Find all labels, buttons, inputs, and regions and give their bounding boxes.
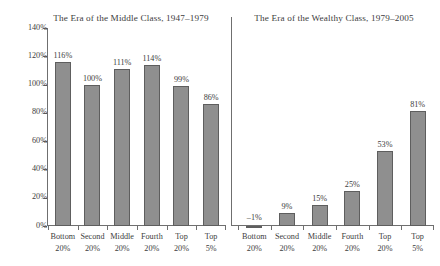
x-category-line2: 20%	[48, 243, 78, 255]
y-tick-label: 140%	[7, 23, 47, 32]
x-category-line1: Second	[78, 231, 108, 243]
bar-value-label: 116%	[53, 51, 72, 60]
x-category-line2: 5%	[401, 243, 434, 255]
x-category-label: Top5%	[196, 231, 226, 254]
x-tick-mark	[369, 226, 370, 230]
x-tick-mark	[336, 226, 337, 230]
bar-slot: 53%	[369, 28, 402, 226]
x-category-label: Bottom20%	[238, 231, 271, 254]
x-tick-mark	[48, 226, 49, 230]
x-category-line2: 20%	[303, 243, 336, 255]
bar[interactable]	[410, 111, 426, 226]
x-category-line2: 20%	[369, 243, 402, 255]
x-tick-mark	[78, 226, 79, 230]
x-category-line1: Fourth	[137, 231, 167, 243]
plot-area-right: –1%9%15%25%53%81%	[238, 28, 434, 226]
bar[interactable]	[279, 213, 295, 226]
panel-title-wealthy-class: The Era of the Wealthy Class, 1979–2005	[236, 13, 432, 23]
bar[interactable]	[173, 86, 189, 226]
bar-value-label: –1%	[247, 213, 262, 222]
plot-area-left: 116%100%111%114%99%86%	[48, 28, 226, 226]
x-category-label: Fourth20%	[137, 231, 167, 254]
x-category-line2: 20%	[107, 243, 137, 255]
bar-slot: 116%	[48, 28, 78, 226]
y-tick-label: 20%	[7, 192, 47, 201]
bar[interactable]	[114, 69, 130, 226]
bar-value-label: 100%	[83, 74, 102, 83]
bar-value-label: 25%	[345, 180, 360, 189]
y-tick-label: 100%	[7, 79, 47, 88]
bar-slot: –1%	[238, 28, 271, 226]
bar-value-label: 86%	[204, 93, 219, 102]
panel-divider	[231, 17, 232, 226]
x-category-line2: 20%	[336, 243, 369, 255]
x-category-line2: 20%	[78, 243, 108, 255]
x-category-label: Middle20%	[107, 231, 137, 254]
bar[interactable]	[144, 65, 160, 226]
x-category-label: Top5%	[401, 231, 434, 254]
bar[interactable]	[203, 104, 219, 226]
x-category-label: Second20%	[78, 231, 108, 254]
x-category-line1: Top	[167, 231, 197, 243]
bar-value-label: 9%	[282, 202, 293, 211]
bar-value-label: 111%	[113, 58, 132, 67]
x-category-line2: 20%	[271, 243, 304, 255]
x-tick-mark	[167, 226, 168, 230]
x-category-label: Fourth20%	[336, 231, 369, 254]
x-category-line2: 20%	[238, 243, 271, 255]
y-tick-label: 80%	[7, 107, 47, 116]
x-category-line1: Top	[196, 231, 226, 243]
x-category-line1: Fourth	[336, 231, 369, 243]
bar-slot: 81%	[401, 28, 434, 226]
bar[interactable]	[84, 85, 100, 226]
bar-value-label: 53%	[377, 140, 392, 149]
y-axis: 0%20%40%60%80%100%120%140%	[0, 0, 47, 266]
x-tick-mark	[137, 226, 138, 230]
x-tick-mark	[196, 226, 197, 230]
y-tick-label: 60%	[7, 136, 47, 145]
x-tick-mark	[238, 226, 239, 230]
x-category-line1: Top	[401, 231, 434, 243]
bar-slot: 100%	[78, 28, 108, 226]
bar[interactable]	[246, 226, 262, 228]
x-tick-mark	[271, 226, 272, 230]
bar-value-label: 99%	[174, 75, 189, 84]
panel-title-middle-class: The Era of the Middle Class, 1947–1979	[36, 13, 226, 23]
x-category-label: Middle20%	[303, 231, 336, 254]
bar[interactable]	[377, 151, 393, 226]
x-category-line2: 20%	[137, 243, 167, 255]
bar-slot: 15%	[303, 28, 336, 226]
x-category-line1: Bottom	[48, 231, 78, 243]
y-tick-label: 0%	[7, 221, 47, 230]
bar-value-label: 81%	[410, 100, 425, 109]
bar[interactable]	[344, 191, 360, 226]
bar[interactable]	[312, 205, 328, 226]
y-tick-label: 120%	[7, 51, 47, 60]
x-tick-mark	[303, 226, 304, 230]
bar-slot: 111%	[107, 28, 137, 226]
x-tick-mark	[401, 226, 402, 230]
y-tick-label: 40%	[7, 164, 47, 173]
x-category-line1: Bottom	[238, 231, 271, 243]
x-tick-mark	[433, 226, 434, 230]
x-category-label: Top20%	[167, 231, 197, 254]
x-category-label: Bottom20%	[48, 231, 78, 254]
bar-value-label: 15%	[312, 194, 327, 203]
bar-value-label: 114%	[142, 54, 161, 63]
bar-slot: 9%	[271, 28, 304, 226]
bar-slot: 25%	[336, 28, 369, 226]
x-category-label: Second20%	[271, 231, 304, 254]
x-category-label: Top20%	[369, 231, 402, 254]
x-category-line2: 5%	[196, 243, 226, 255]
bar-slot: 86%	[196, 28, 226, 226]
x-category-line1: Middle	[303, 231, 336, 243]
bar-slot: 99%	[167, 28, 197, 226]
x-category-line1: Second	[271, 231, 304, 243]
x-category-line1: Top	[369, 231, 402, 243]
x-tick-mark	[107, 226, 108, 230]
x-category-line2: 20%	[167, 243, 197, 255]
bar-slot: 114%	[137, 28, 167, 226]
chart-figure: 0%20%40%60%80%100%120%140% The Era of th…	[0, 0, 440, 266]
bar[interactable]	[55, 62, 71, 226]
x-tick-mark	[225, 226, 226, 230]
